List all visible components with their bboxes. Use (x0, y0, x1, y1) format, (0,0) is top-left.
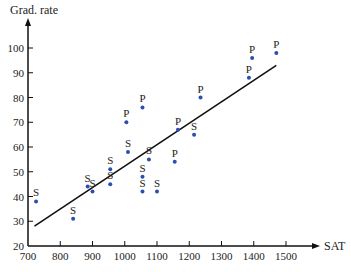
x-tick-label: 1100 (146, 250, 168, 262)
x-tick-label: 800 (52, 250, 69, 262)
y-tick-label: 100 (8, 42, 25, 54)
chart-canvas: Grad. rateSAT203040506070809010070080090… (0, 0, 351, 272)
x-tick-label: 1500 (275, 250, 298, 262)
y-axis-title: Grad. rate (10, 3, 58, 17)
data-point (176, 128, 180, 132)
data-point (250, 56, 254, 60)
data-point (124, 120, 128, 124)
data-point (247, 76, 251, 80)
data-point (108, 182, 112, 186)
data-point-label: P (249, 43, 255, 55)
data-point-label: P (175, 115, 181, 127)
x-tick-label: 700 (20, 250, 37, 262)
data-point (91, 190, 95, 194)
regression-line (34, 65, 276, 226)
data-point-label: S (139, 162, 145, 174)
data-point-label: P (273, 38, 279, 50)
data-point-label: P (139, 92, 145, 104)
data-point-label: S (70, 204, 76, 216)
y-tick-label: 60 (13, 141, 25, 153)
data-point-label: S (89, 177, 95, 189)
data-point-label: S (125, 137, 131, 149)
x-tick-label: 900 (84, 250, 101, 262)
data-point (173, 160, 177, 164)
x-tick-label: 1400 (243, 250, 266, 262)
y-tick-label: 50 (13, 166, 25, 178)
y-tick-label: 90 (13, 67, 25, 79)
data-point (274, 51, 278, 55)
data-point-label: S (191, 120, 197, 132)
data-point (140, 105, 144, 109)
data-point-label: S (107, 169, 113, 181)
data-point (192, 133, 196, 137)
x-tick-label: 1200 (178, 250, 201, 262)
data-point (155, 190, 159, 194)
data-point-label: S (146, 144, 152, 156)
x-tick-label: 1300 (211, 250, 234, 262)
x-tick-label: 1000 (114, 250, 137, 262)
data-point (71, 217, 75, 221)
y-tick-label: 80 (13, 92, 25, 104)
data-point (126, 150, 130, 154)
data-point-label: P (197, 83, 203, 95)
data-point (147, 157, 151, 161)
data-point-label: S (154, 177, 160, 189)
y-tick-label: 30 (13, 215, 25, 227)
scatter-chart: Grad. rateSAT203040506070809010070080090… (0, 0, 351, 272)
y-tick-label: 40 (13, 191, 25, 203)
data-point-label: S (139, 177, 145, 189)
data-point-label: S (33, 186, 39, 198)
data-point-label: P (123, 107, 129, 119)
x-axis-arrow-icon (312, 243, 320, 249)
data-point (34, 199, 38, 203)
data-point-label: P (246, 63, 252, 75)
data-point (140, 190, 144, 194)
y-axis-arrow-icon (25, 18, 31, 26)
y-tick-label: 70 (13, 116, 25, 128)
data-point-label: P (172, 147, 178, 159)
data-point-label: S (107, 154, 113, 166)
x-axis-title: SAT (324, 239, 346, 253)
data-point (199, 96, 203, 100)
